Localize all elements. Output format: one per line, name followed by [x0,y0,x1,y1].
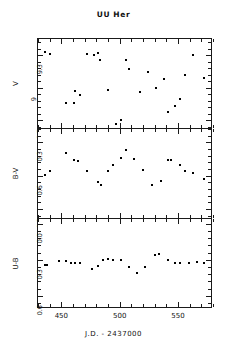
axis-tick [208,42,211,43]
axis-tick [61,39,62,44]
y-tick-label: 9 [31,97,38,101]
axis-tick [155,129,156,132]
axis-tick [208,189,211,190]
axis-tick [61,219,62,224]
axis-tick [38,260,43,261]
axis-tick [208,231,211,232]
axis-tick [38,267,41,268]
axis-tick [208,49,211,50]
data-point [179,98,181,100]
data-point [128,68,130,70]
axis-tick [131,129,132,132]
data-point [151,184,153,186]
axis-tick [38,202,41,203]
axis-tick [85,39,86,42]
axis-tick [38,253,41,254]
x-axis-title: J.D. - 2437000 [0,330,227,338]
axis-tick [206,120,211,121]
axis-tick [213,129,214,132]
axis-tick [96,219,97,222]
data-point [158,253,160,255]
data-point [65,260,67,262]
data-point [179,262,181,264]
axis-tick [38,162,41,163]
data-point [112,164,114,166]
axis-tick [208,182,211,183]
axis-tick [96,304,97,307]
axis-tick [38,94,41,95]
axis-tick [155,39,156,42]
axis-tick [73,129,74,132]
axis-tick [213,215,214,218]
data-point [77,160,79,162]
data-point [97,52,99,54]
axis-tick [85,129,86,132]
axis-tick [120,129,121,134]
axis-tick [120,219,121,224]
data-point [155,87,157,89]
axis-tick [38,231,41,232]
axis-tick [206,260,211,261]
axis-tick [155,304,156,307]
axis-tick [143,39,144,42]
axis-tick [208,68,211,69]
axis-tick [108,304,109,307]
data-point [188,262,190,264]
axis-tick [38,274,41,275]
axis-tick [208,156,211,157]
axis-tick [178,39,179,44]
axis-tick [38,156,41,157]
axis-tick [50,39,51,42]
axis-tick [208,149,211,150]
data-point [79,94,81,96]
axis-tick [108,39,109,42]
data-point [49,170,51,172]
axis-tick [61,129,62,134]
y-tick-label: 9.3 [37,64,44,74]
axis-tick [108,219,109,222]
data-point [93,54,95,56]
axis-tick [38,149,41,150]
axis-tick [166,129,167,132]
axis-tick [96,129,97,132]
axis-tick [50,219,51,222]
y-axis-title: V [13,73,20,95]
axis-tick [190,39,191,42]
axis-tick [38,136,41,137]
data-point [167,159,169,161]
axis-tick [38,88,43,89]
axis-tick [50,129,51,132]
axis-tick [131,39,132,42]
axis-tick [120,39,121,44]
axis-tick [208,114,211,115]
axis-tick [206,55,211,56]
axis-tick [208,169,211,170]
data-point [154,254,156,256]
axis-tick [38,281,41,282]
axis-tick [38,129,41,130]
data-point [112,259,114,261]
axis-tick [38,107,41,108]
data-point [120,157,122,159]
axis-tick [208,303,211,304]
data-point [102,259,104,261]
axis-tick [190,219,191,222]
axis-tick [206,142,211,143]
data-point [192,172,194,174]
panel-v: 8.799.3V [37,38,212,128]
axis-tick [96,39,97,42]
axis-tick [208,107,211,108]
axis-tick [206,224,211,225]
axis-tick [208,281,211,282]
axis-tick [213,304,214,307]
data-point [196,261,198,263]
data-point [65,152,67,154]
data-point [91,268,93,270]
axis-tick [38,216,41,217]
data-point [136,272,138,274]
axis-tick [206,88,211,89]
axis-tick [166,304,167,307]
axis-tick [208,238,211,239]
data-point [170,159,172,161]
data-point [44,51,46,53]
